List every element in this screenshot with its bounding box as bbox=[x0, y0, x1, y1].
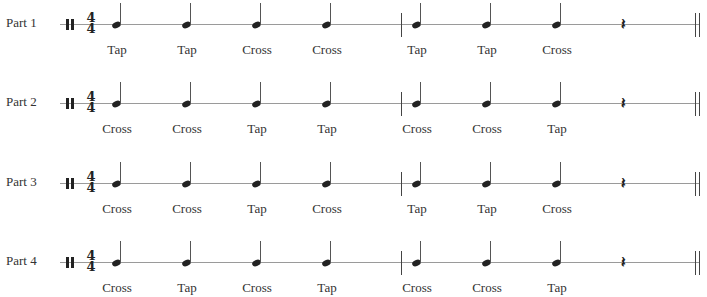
note-stem bbox=[190, 162, 191, 184]
note-stem bbox=[260, 162, 261, 184]
quarter-note-icon bbox=[412, 240, 424, 266]
quarter-note-icon bbox=[252, 240, 264, 266]
final-double-barline bbox=[695, 92, 700, 116]
quarter-note-icon bbox=[322, 161, 334, 187]
quarter-note-icon bbox=[322, 240, 334, 266]
quarter-note-icon bbox=[482, 161, 494, 187]
time-signature: 44 bbox=[85, 91, 97, 113]
quarter-note-icon bbox=[112, 81, 124, 107]
time-signature: 44 bbox=[85, 250, 97, 272]
beat-label: Cross bbox=[242, 280, 272, 296]
note-stem bbox=[330, 82, 331, 104]
note-stem bbox=[560, 162, 561, 184]
quarter-note-icon bbox=[552, 240, 564, 266]
percussion-clef-icon bbox=[66, 257, 74, 268]
beat-label: Cross bbox=[312, 201, 342, 217]
beat-label: Cross bbox=[172, 121, 202, 137]
beat-label: Tap bbox=[247, 201, 266, 217]
final-double-barline bbox=[695, 251, 700, 275]
quarter-note-icon bbox=[252, 161, 264, 187]
beat-label: Tap bbox=[407, 201, 426, 217]
quarter-note-icon bbox=[412, 161, 424, 187]
quarter-rest-icon: 𝄽 bbox=[621, 95, 626, 111]
quarter-note-icon bbox=[552, 161, 564, 187]
note-stem bbox=[560, 82, 561, 104]
note-stem bbox=[330, 162, 331, 184]
beat-label: Tap bbox=[317, 280, 336, 296]
beat-label: Cross bbox=[102, 280, 132, 296]
beat-label: Tap bbox=[547, 280, 566, 296]
percussion-clef-icon bbox=[66, 98, 74, 109]
quarter-note-icon bbox=[182, 161, 194, 187]
beat-label: Cross bbox=[172, 201, 202, 217]
part-label: Part 4 bbox=[6, 253, 37, 269]
staff-line bbox=[60, 103, 700, 104]
note-stem bbox=[560, 241, 561, 263]
note-stem bbox=[190, 82, 191, 104]
beat-label: Tap bbox=[477, 201, 496, 217]
quarter-note-icon bbox=[412, 81, 424, 107]
note-stem bbox=[120, 241, 121, 263]
beat-label: Tap bbox=[547, 121, 566, 137]
beat-label: Cross bbox=[102, 121, 132, 137]
beat-label: Cross bbox=[402, 280, 432, 296]
staff-line bbox=[60, 183, 700, 184]
quarter-note-icon bbox=[182, 240, 194, 266]
beat-label: Tap bbox=[247, 121, 266, 137]
time-signature-bottom: 4 bbox=[85, 102, 97, 113]
note-stem bbox=[420, 241, 421, 263]
beat-label: Cross bbox=[102, 201, 132, 217]
note-stem bbox=[120, 82, 121, 104]
part-row: Part 444CrossTapCrossTapCrossCrossTap𝄽 bbox=[0, 0, 707, 79]
quarter-note-icon bbox=[552, 81, 564, 107]
percussion-clef-icon bbox=[66, 178, 74, 189]
quarter-note-icon bbox=[112, 240, 124, 266]
quarter-rest-icon: 𝄽 bbox=[621, 175, 626, 191]
note-stem bbox=[190, 241, 191, 263]
beat-label: Tap bbox=[317, 121, 336, 137]
beat-label: Cross bbox=[542, 201, 572, 217]
time-signature-bottom: 4 bbox=[85, 182, 97, 193]
note-stem bbox=[490, 241, 491, 263]
quarter-note-icon bbox=[482, 240, 494, 266]
quarter-rest-icon: 𝄽 bbox=[621, 254, 626, 270]
beat-label: Tap bbox=[177, 280, 196, 296]
note-stem bbox=[490, 82, 491, 104]
beat-label: Cross bbox=[402, 121, 432, 137]
time-signature-bottom: 4 bbox=[85, 261, 97, 272]
barline bbox=[401, 172, 402, 196]
staff-line bbox=[60, 262, 700, 263]
note-stem bbox=[330, 241, 331, 263]
final-double-barline bbox=[695, 172, 700, 196]
note-stem bbox=[490, 162, 491, 184]
quarter-note-icon bbox=[322, 81, 334, 107]
time-signature: 44 bbox=[85, 171, 97, 193]
note-stem bbox=[260, 82, 261, 104]
part-label: Part 3 bbox=[6, 174, 37, 190]
quarter-note-icon bbox=[482, 81, 494, 107]
note-stem bbox=[260, 241, 261, 263]
note-stem bbox=[420, 82, 421, 104]
beat-label: Cross bbox=[472, 280, 502, 296]
note-stem bbox=[120, 162, 121, 184]
beat-label: Cross bbox=[472, 121, 502, 137]
quarter-note-icon bbox=[182, 81, 194, 107]
barline bbox=[401, 251, 402, 275]
quarter-note-icon bbox=[112, 161, 124, 187]
part-label: Part 2 bbox=[6, 94, 37, 110]
barline bbox=[401, 92, 402, 116]
note-stem bbox=[420, 162, 421, 184]
quarter-note-icon bbox=[252, 81, 264, 107]
